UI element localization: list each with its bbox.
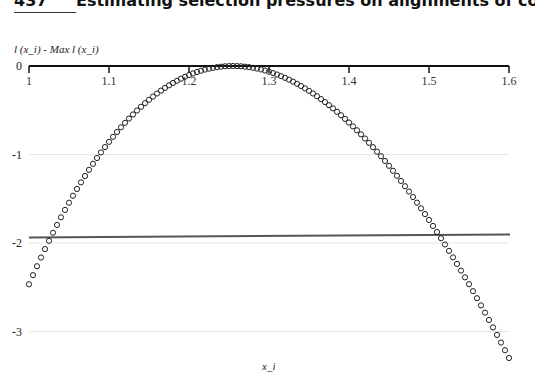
data-point bbox=[30, 273, 35, 278]
data-point bbox=[494, 332, 499, 337]
data-point bbox=[450, 255, 455, 260]
y-tick-label: 0 bbox=[16, 59, 22, 73]
data-point bbox=[470, 289, 475, 294]
data-point bbox=[422, 211, 427, 216]
data-point bbox=[474, 296, 479, 301]
x-tick-label: 1 bbox=[26, 74, 32, 88]
x-tick-label: 1.3 bbox=[262, 74, 277, 88]
data-point bbox=[114, 129, 119, 134]
data-point bbox=[482, 310, 487, 315]
data-point bbox=[26, 282, 31, 287]
data-point bbox=[374, 149, 379, 154]
data-point bbox=[50, 230, 55, 235]
data-point bbox=[398, 178, 403, 183]
data-point bbox=[82, 173, 87, 178]
data-point bbox=[462, 275, 467, 280]
data-point bbox=[466, 282, 471, 287]
data-point bbox=[90, 161, 95, 166]
x-tick-label: 1.1 bbox=[102, 74, 117, 88]
data-point bbox=[502, 348, 507, 353]
data-point bbox=[66, 200, 71, 205]
data-point bbox=[410, 194, 415, 199]
data-point bbox=[102, 144, 107, 149]
data-point bbox=[430, 223, 435, 228]
x-tick-label: 1.5 bbox=[422, 74, 437, 88]
data-point bbox=[418, 206, 423, 211]
data-point bbox=[506, 355, 511, 360]
data-point bbox=[370, 145, 375, 150]
data-point bbox=[34, 264, 39, 269]
data-point bbox=[366, 140, 371, 145]
likelihood-chart: 0-1-2-311.11.21.31.41.51.6 bbox=[0, 0, 535, 383]
data-point bbox=[402, 184, 407, 189]
data-point bbox=[486, 317, 491, 322]
y-tick-label: -2 bbox=[12, 236, 22, 250]
y-tick-label: -1 bbox=[12, 148, 22, 162]
data-point bbox=[86, 167, 91, 172]
y-tick-label: -3 bbox=[12, 325, 22, 339]
data-point bbox=[62, 207, 67, 212]
data-point bbox=[490, 325, 495, 330]
data-point bbox=[42, 246, 47, 251]
data-point bbox=[446, 248, 451, 253]
data-point bbox=[78, 180, 83, 185]
data-point bbox=[390, 168, 395, 173]
data-point bbox=[406, 189, 411, 194]
data-point bbox=[382, 158, 387, 163]
data-point bbox=[106, 139, 111, 144]
data-point bbox=[74, 186, 79, 191]
data-point bbox=[358, 132, 363, 137]
data-point bbox=[386, 163, 391, 168]
data-point bbox=[354, 128, 359, 133]
x-tick-label: 1.6 bbox=[502, 74, 517, 88]
data-point bbox=[498, 340, 503, 345]
data-point bbox=[38, 255, 43, 260]
data-point bbox=[414, 200, 419, 205]
data-point bbox=[478, 303, 483, 308]
data-point bbox=[426, 217, 431, 222]
data-point bbox=[394, 173, 399, 178]
data-point bbox=[54, 222, 59, 227]
data-point bbox=[126, 116, 131, 121]
data-point bbox=[94, 155, 99, 160]
x-tick-label: 1.4 bbox=[342, 74, 357, 88]
data-point bbox=[454, 261, 459, 266]
data-point bbox=[458, 268, 463, 273]
data-point bbox=[362, 136, 367, 141]
data-point bbox=[118, 125, 123, 130]
data-point bbox=[434, 229, 439, 234]
data-point bbox=[70, 193, 75, 198]
data-point bbox=[58, 215, 63, 220]
data-point bbox=[110, 134, 115, 139]
data-point bbox=[122, 120, 127, 125]
data-point bbox=[438, 236, 443, 241]
